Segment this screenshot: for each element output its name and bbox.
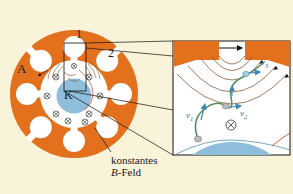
velocity-label-v2-sub: 2 [244,113,247,120]
cathode-label: K [64,89,73,102]
velocity-label-v3: v3 [261,57,268,69]
cavity-label-1: 1 [76,28,82,41]
velocity-label-v1: v1 [186,110,193,122]
b-field-caption-symbol: B [111,166,118,178]
velocity-label-v1-sub: 1 [190,115,193,122]
b-field-caption: konstantes B-Feld [111,155,157,178]
magnetron-disk [10,30,138,158]
velocity-label-v2: v2 [240,108,247,120]
b-field-caption-line2: B-Feld [111,167,157,179]
cavity-label-2: 2 [108,47,114,60]
magnetron-figure: A K 1 2 konstantes B-Feld v1 v2 v3 [0,0,293,194]
anode-label: A [17,62,26,76]
velocity-label-v3-sub: 3 [265,62,268,69]
b-field-caption-suffix: -Feld [118,166,141,178]
